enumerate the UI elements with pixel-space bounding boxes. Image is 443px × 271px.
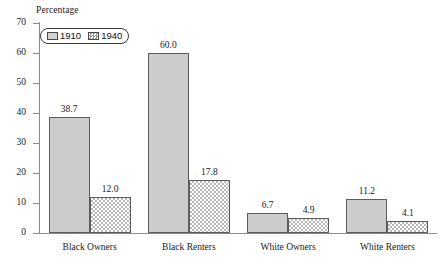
bar-value-label: 38.7 [39, 105, 100, 115]
bar-black-renters-1940 [189, 180, 230, 233]
bar-black-owners-1940 [90, 197, 131, 233]
legend-label-1940: 1940 [101, 31, 122, 41]
legend-label-1910: 1910 [60, 31, 81, 41]
category-label-white-owners: White Owners [239, 242, 338, 252]
checkerboard-swatch-icon [88, 32, 99, 40]
bar-chart: Percentage 010203040506070 38.712.060.01… [0, 0, 443, 271]
bar-value-label: 60.0 [138, 41, 199, 51]
bar-black-renters-1910 [148, 53, 189, 233]
category-label-black-owners: Black Owners [40, 242, 139, 252]
bar-white-renters-1940 [387, 221, 428, 233]
legend-item-1940: 1940 [88, 31, 122, 41]
bar-value-label: 4.1 [377, 209, 438, 219]
legend-item-1910: 1910 [47, 31, 81, 41]
solid-gray-swatch-icon [47, 32, 58, 40]
category-label-white-renters: White Renters [338, 242, 437, 252]
bar-value-label: 17.8 [179, 168, 240, 178]
bar-white-owners-1910 [247, 213, 288, 233]
bar-black-owners-1910 [49, 117, 90, 233]
category-label-black-renters: Black Renters [139, 242, 238, 252]
bar-white-owners-1940 [288, 218, 329, 233]
bar-value-label: 4.9 [278, 206, 339, 216]
bar-value-label: 12.0 [80, 185, 141, 195]
chart-legend: 1910 1940 [40, 28, 129, 44]
bar-value-label: 11.2 [336, 187, 397, 197]
